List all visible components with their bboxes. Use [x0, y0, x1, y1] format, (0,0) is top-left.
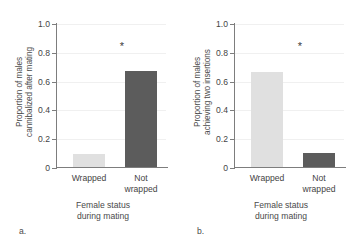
- x-axis-line-b: [234, 167, 346, 168]
- x-tick-label-b-wrapped-line1: Wrapped: [238, 173, 296, 184]
- y-tick-a-1: [52, 139, 56, 140]
- y-tick-b-1: [230, 139, 234, 140]
- chart-panel-a: Proportion of males cannibalized after m…: [0, 0, 178, 246]
- y-tick-label-b-5: 1.0: [216, 19, 228, 29]
- x-tick-label-a-not-wrapped-line2: wrapped: [112, 184, 170, 195]
- significance-marker-a: *: [120, 41, 124, 52]
- significance-marker-b: *: [298, 41, 302, 52]
- x-tick-label-a-wrapped: Wrapped: [60, 173, 118, 184]
- gridline-b-1.0: [235, 24, 344, 25]
- y-tick-label-a-0: 0: [45, 163, 50, 173]
- y-tick-label-a-2: 0.4: [38, 105, 50, 115]
- y-tick-label-b-3: 0.6: [216, 77, 228, 87]
- x-axis-title-b-line2: during mating: [206, 211, 356, 222]
- y-tick-b-3: [230, 82, 234, 83]
- y-tick-a-4: [52, 53, 56, 54]
- bar-b-not-wrapped: [303, 153, 335, 167]
- x-tick-label-b-not-wrapped: Not wrapped: [290, 173, 348, 194]
- y-tick-a-5: [52, 24, 56, 25]
- x-tick-label-b-not-wrapped-line2: wrapped: [290, 184, 348, 195]
- gridline-a-0.8: [57, 53, 166, 54]
- y-tick-label-b-0: 0: [223, 163, 228, 173]
- y-axis-title-b-line2: achieving two insertions: [203, 49, 214, 135]
- y-tick-b-0: [230, 168, 234, 169]
- y-axis-line-a: [56, 23, 57, 169]
- y-tick-b-5: [230, 24, 234, 25]
- panel-label-b: b.: [197, 226, 204, 236]
- x-tick-label-a-not-wrapped: Not wrapped: [112, 173, 170, 194]
- x-axis-title-a-line1: Female status: [28, 200, 178, 211]
- y-tick-label-a-5: 1.0: [38, 19, 50, 29]
- y-tick-label-a-3: 0.6: [38, 77, 50, 87]
- plot-area-b: 1.0 0.8 0.6 0.4 0.2 0 * Wrapped Not wrap…: [234, 24, 344, 168]
- bar-a-not-wrapped: [125, 71, 157, 168]
- plot-area-a: 1.0 0.8 0.6 0.4 0.2 0 * Wrapped Not wrap…: [56, 24, 166, 168]
- y-tick-label-a-4: 0.8: [38, 48, 50, 58]
- y-tick-label-b-1: 0.2: [216, 134, 228, 144]
- y-tick-a-2: [52, 110, 56, 111]
- y-axis-title-b: Proportion of males achieving two insert…: [190, 14, 216, 170]
- y-tick-a-3: [52, 82, 56, 83]
- bar-a-wrapped: [73, 154, 105, 167]
- bar-b-wrapped: [251, 72, 283, 167]
- y-tick-label-b-2: 0.4: [216, 105, 228, 115]
- y-axis-title-a-line1: Proportion of males: [15, 57, 26, 127]
- y-tick-label-a-1: 0.2: [38, 134, 50, 144]
- y-tick-label-b-4: 0.8: [216, 48, 228, 58]
- figure-container: Proportion of males cannibalized after m…: [0, 0, 356, 246]
- y-axis-title-b-line1: Proportion of males: [193, 57, 204, 127]
- x-axis-title-b: Female status during mating: [206, 200, 356, 222]
- chart-panel-b: Proportion of males achieving two insert…: [178, 0, 356, 246]
- x-tick-label-b-not-wrapped-line1: Not: [290, 173, 348, 184]
- x-tick-label-a-not-wrapped-line1: Not: [112, 173, 170, 184]
- y-axis-title-a: Proportion of males cannibalized after m…: [12, 14, 38, 170]
- panel-label-a: a.: [19, 226, 26, 236]
- y-tick-b-4: [230, 53, 234, 54]
- gridline-a-1.0: [57, 24, 166, 25]
- y-axis-title-a-line2: cannibalized after mating: [25, 47, 36, 137]
- x-tick-label-b-wrapped: Wrapped: [238, 173, 296, 184]
- gridline-b-0.8: [235, 53, 344, 54]
- x-tick-label-a-wrapped-line1: Wrapped: [60, 173, 118, 184]
- x-axis-title-a-line2: during mating: [28, 211, 178, 222]
- x-axis-title-b-line1: Female status: [206, 200, 356, 211]
- y-tick-b-2: [230, 110, 234, 111]
- x-axis-line-a: [56, 167, 168, 168]
- y-tick-a-0: [52, 168, 56, 169]
- y-axis-line-b: [234, 23, 235, 169]
- x-axis-title-a: Female status during mating: [28, 200, 178, 222]
